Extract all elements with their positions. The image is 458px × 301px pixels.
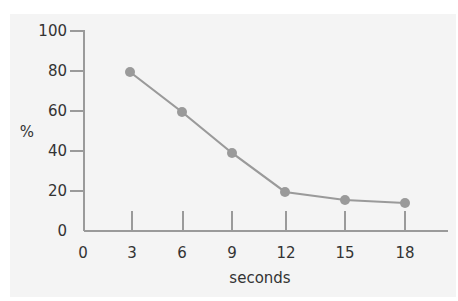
data-point [400,198,410,208]
x-tick-label: 15 [335,244,354,262]
y-tick-label: 60 [48,102,67,120]
y-tick-label: 40 [48,142,67,160]
data-point [177,107,187,117]
x-tick-label: 18 [395,244,414,262]
data-point [340,195,350,205]
y-tick-label: 20 [48,182,67,200]
y-tick-label: 100 [38,22,67,40]
data-markers [125,67,410,208]
x-tick-label: 6 [177,244,187,262]
x-ticks [132,211,405,231]
y-tick-label: 80 [48,62,67,80]
y-ticks [70,31,84,191]
line-chart: 100 80 60 40 20 0 % 0 3 6 9 12 15 18 sec… [0,0,458,301]
x-axis-title: seconds [229,269,290,287]
y-axis-title: % [20,123,34,141]
data-point [227,148,237,158]
x-tick-label: 0 [78,244,88,262]
data-line [130,72,405,203]
x-tick-label: 9 [227,244,237,262]
y-tick-label: 0 [57,222,67,240]
data-point [280,187,290,197]
x-tick-label: 12 [276,244,295,262]
data-point [125,67,135,77]
x-tick-label: 3 [127,244,137,262]
